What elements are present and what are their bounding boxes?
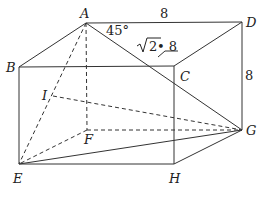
label-G: G xyxy=(246,123,256,138)
edge-AF-hidden xyxy=(86,23,87,130)
label-A: A xyxy=(79,6,89,21)
edge-DC-diagonal xyxy=(174,22,242,66)
label-I: I xyxy=(41,88,48,103)
angle-label: 45° xyxy=(106,23,129,38)
label-F: F xyxy=(83,132,94,147)
line-IG-hidden xyxy=(53,96,242,130)
diag-length-label: 2 • 8 xyxy=(137,38,177,54)
label-E: E xyxy=(12,171,23,186)
length-AD: 8 xyxy=(160,6,168,21)
label-H: H xyxy=(168,171,181,186)
label-D: D xyxy=(245,15,257,30)
line-AE-hidden xyxy=(19,23,86,164)
length-DG: 8 xyxy=(245,68,253,83)
label-C: C xyxy=(180,69,190,84)
diag-multiplier: • 8 xyxy=(157,39,177,54)
cuboid-diagram: A D B C I F G E H 8 8 45° 2 • 8 xyxy=(0,0,265,198)
label-B: B xyxy=(5,60,16,75)
